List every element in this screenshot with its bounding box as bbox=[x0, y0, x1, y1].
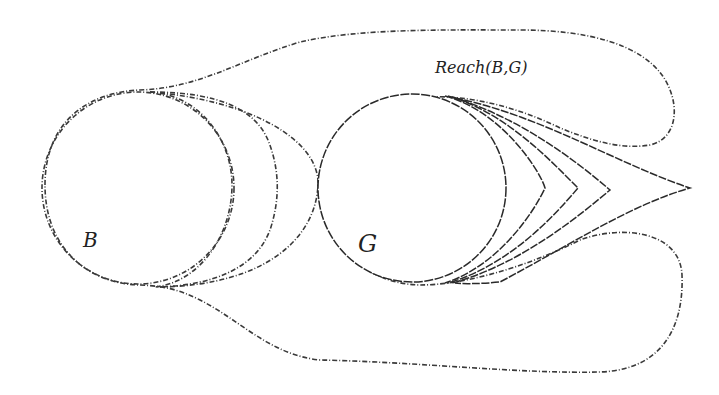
goal-set-label: G bbox=[358, 230, 377, 258]
goal-set-G bbox=[318, 94, 506, 282]
reach-set-diagram: Reach(B,G) B G bbox=[0, 0, 719, 395]
start-set-label: B bbox=[82, 228, 98, 252]
reach-set-label: Reach(B,G) bbox=[434, 58, 527, 77]
